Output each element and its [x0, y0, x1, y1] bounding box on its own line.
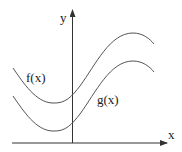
curve-f-label: f(x)	[26, 70, 46, 85]
curve-f	[13, 33, 154, 103]
y-axis-label: y	[60, 10, 67, 25]
x-axis-label: x	[168, 127, 175, 142]
function-plot-figure: y x f(x) g(x)	[0, 0, 182, 152]
curve-g-label: g(x)	[97, 92, 119, 107]
plot-canvas: y x f(x) g(x)	[0, 0, 182, 152]
